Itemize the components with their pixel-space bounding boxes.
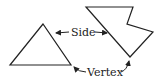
diagram-svg bbox=[0, 0, 164, 81]
vertex-label: Vertex bbox=[87, 67, 123, 78]
triangle-shape bbox=[10, 24, 71, 65]
vertex-arrow-left bbox=[74, 67, 86, 72]
side-arrow-left bbox=[56, 32, 69, 33]
side-arrow-right bbox=[95, 32, 107, 33]
side-label: Side bbox=[71, 27, 96, 38]
diagram-canvas: Side Vertex bbox=[0, 0, 164, 81]
